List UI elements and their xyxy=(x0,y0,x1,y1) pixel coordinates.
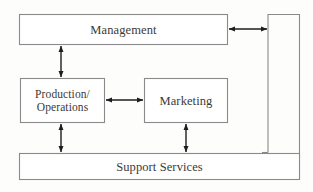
diagram-canvas: Management Production/ Operations Market… xyxy=(0,0,313,192)
diagram-vector-layer xyxy=(0,0,313,192)
node-box-support-services xyxy=(20,154,300,180)
node-box-management xyxy=(20,15,228,45)
node-box-production-operations xyxy=(21,79,105,123)
node-box-marketing xyxy=(145,79,228,123)
